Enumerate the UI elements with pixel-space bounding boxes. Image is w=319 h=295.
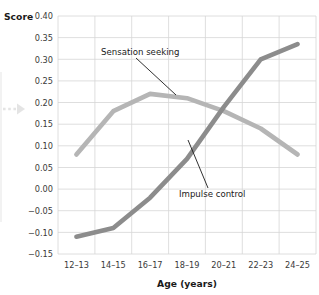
x-tick: 22–23 <box>248 260 273 270</box>
y-tick: 0.35 <box>35 33 53 43</box>
y-tick: 0.25 <box>35 76 53 86</box>
x-tick: 18–19 <box>175 260 200 270</box>
x-tick: 12–13 <box>64 260 89 270</box>
x-tick: 14–15 <box>101 260 126 270</box>
annotation-sensation-seeking: Sensation seeking <box>101 47 179 57</box>
x-tick: 24–25 <box>285 260 310 270</box>
left-edge-strip <box>0 72 2 222</box>
x-tick: 16–17 <box>138 260 163 270</box>
y-axis-title: Score <box>4 11 33 22</box>
x-axis-title: Age (years) <box>157 278 217 289</box>
annotation-impulse-control: Impulse control <box>179 189 245 199</box>
y-axis-tick-labels: 0.40 0.35 0.30 0.25 0.20 0.15 0.10 0.05 … <box>28 11 53 259</box>
figure-container: 0.40 0.35 0.30 0.25 0.20 0.15 0.10 0.05 … <box>0 0 319 295</box>
x-axis-tick-labels: 12–13 14–15 16–17 18–19 20–21 22–23 24–2… <box>64 260 310 270</box>
y-tick: −0.15 <box>28 249 53 259</box>
y-tick: 0.05 <box>35 163 53 173</box>
y-tick: 0.20 <box>35 98 53 108</box>
dashed-right-arrow-icon <box>3 104 25 115</box>
y-tick: 0.30 <box>35 55 53 65</box>
y-tick: 0.00 <box>35 184 53 194</box>
x-tick: 20–21 <box>211 260 236 270</box>
y-tick: 0.40 <box>35 11 53 21</box>
y-tick: −0.05 <box>28 206 53 216</box>
y-tick: −0.10 <box>28 228 53 238</box>
line-chart: 0.40 0.35 0.30 0.25 0.20 0.15 0.10 0.05 … <box>0 0 319 295</box>
y-tick: 0.10 <box>35 141 53 151</box>
y-tick: 0.15 <box>35 119 53 129</box>
